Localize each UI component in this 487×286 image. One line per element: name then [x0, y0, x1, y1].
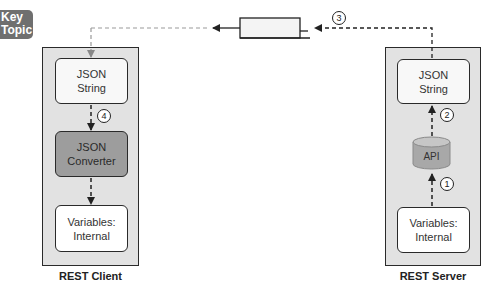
connector-lines [0, 0, 487, 286]
api-label: API [413, 151, 450, 162]
step-2-marker: 2 [440, 108, 454, 122]
step-3-marker: 3 [332, 11, 346, 25]
step-4-marker: 4 [97, 109, 111, 123]
step-1-marker: 1 [440, 177, 454, 191]
